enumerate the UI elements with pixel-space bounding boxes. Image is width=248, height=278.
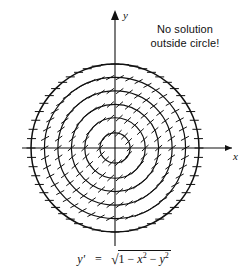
radicand-minus: − [147, 252, 160, 266]
radicand-exp-y: 2 [165, 251, 169, 260]
radicand: 1 − x2 − y2 [118, 250, 171, 267]
annotation-line-2: outside circle! [132, 36, 238, 50]
x-axis-arrowhead-icon [225, 145, 232, 151]
no-solution-annotation: No solution outside circle! [132, 22, 238, 50]
y-axis-arrowhead-icon [111, 10, 119, 20]
radicand-prefix: 1 − [119, 252, 138, 266]
equation-caption: y' = √1 − x2 − y2 [0, 250, 248, 268]
annotation-line-1: No solution [132, 22, 238, 36]
equation-equals: = [95, 252, 102, 266]
square-root-expression: √1 − x2 − y2 [109, 250, 171, 268]
y-axis-label: y [123, 9, 128, 21]
x-axis-label: x [233, 150, 238, 162]
slope-field-figure: No solution outside circle! y x y' = √1 … [0, 0, 248, 278]
equation-lhs: y' [77, 252, 85, 266]
equation-expression: y' = √1 − x2 − y2 [77, 250, 171, 268]
